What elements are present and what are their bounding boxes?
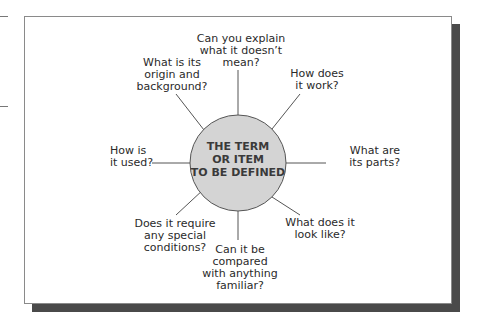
spoke-label-origin: What is its origin and background? — [136, 57, 208, 93]
spoke-label-explain-negative: Can you explain what it doesn’t mean? — [196, 33, 286, 69]
spoke-label-look-like: What does it look like? — [280, 217, 360, 241]
spoke-line-upleft — [176, 94, 204, 130]
spoke-label-special-conditions: Does it require any special conditions? — [130, 218, 220, 254]
spoke-label-parts: What are its parts? — [330, 145, 400, 169]
spoke-line-upright — [272, 94, 300, 129]
spoke-line-downleft — [176, 189, 204, 215]
spoke-label-how-used: How is it used? — [110, 145, 150, 169]
center-term-label: THE TERM OR ITEM TO BE DEFINED — [190, 140, 286, 179]
spoke-label-how-work: How does it work? — [282, 68, 352, 92]
spoke-line-downright — [272, 197, 300, 215]
